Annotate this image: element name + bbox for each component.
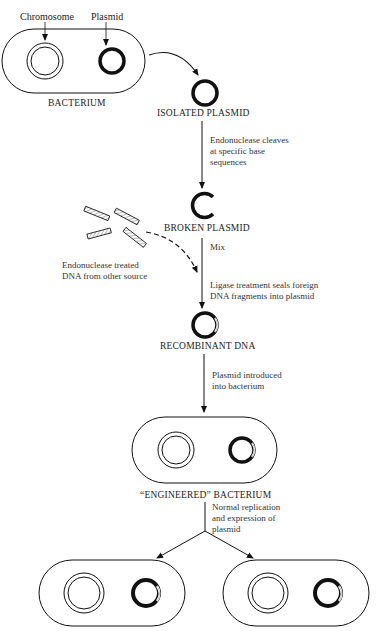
isolated-plasmid-label: ISOLATED PLASMID [157,108,250,118]
daughter-bacterium-right [223,560,369,626]
introduce-text-2: into bacterium [212,381,264,391]
foreign-dna-text-2: DNA from other source [62,271,147,281]
ligase-text-2: DNA fragments into plasmid [210,291,315,301]
replicate-text-2: and expression of [212,513,275,523]
recombinant-plasmid-icon [193,313,217,337]
recombinant-dna-label: RECOMBINANT DNA [160,341,255,351]
recombinant-plasmid-icon [133,580,159,606]
cleave-text-3: sequences [210,157,247,167]
chromosome-label: Chromosome [20,11,74,22]
ligase-text-1: Ligase treatment seals foreign [210,280,319,290]
replicate-text-1: Normal replication [212,502,281,512]
cleave-text-1: Endonuclease cleaves [210,135,289,145]
cleave-text-2: at specific base [210,146,265,156]
recombinant-plasmid-icon [230,438,254,462]
recombinant-plasmid-icon [315,580,341,606]
plasmid-icon [100,49,124,73]
replicate-arrow-right [205,531,253,558]
bacterium-original [2,29,145,93]
engineered-bacterium-label: “ENGINEERED” BACTERIUM [140,490,272,500]
foreign-dna-text-1: Endonuclease treated [62,260,139,270]
replicate-arrow-left [157,531,205,558]
bacterium-label: BACTERIUM [48,98,106,108]
plasmid-label: Plasmid [91,11,123,22]
chromosome-icon [27,43,63,79]
engineered-bacterium [132,417,277,483]
isolated-plasmid-icon [193,81,217,105]
chromosome-icon [64,573,104,613]
isolate-arrow [149,53,198,76]
chromosome-icon [158,432,194,468]
chromosome-icon [248,573,288,613]
mix-text: Mix [210,242,226,252]
broken-plasmid-icon [193,194,213,218]
daughter-bacterium-left [39,560,185,626]
mix-dashed-arrow [146,232,197,272]
recombinant-dna-diagram: Chromosome Plasmid BACTERIUM ISOLATED PL… [0,0,377,636]
introduce-text-1: Plasmid introduced [212,370,282,380]
foreign-dna-fragments-icon [84,206,147,247]
replicate-text-3: plasmid [212,524,241,534]
broken-plasmid-label: BROKEN PLASMID [164,223,250,233]
